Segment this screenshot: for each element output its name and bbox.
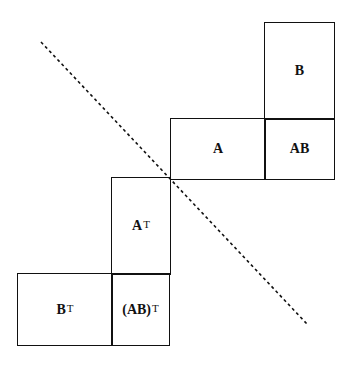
- transpose-superscript: T: [143, 218, 150, 230]
- box-b-label: B: [295, 63, 304, 79]
- box-ab-label: AB: [290, 141, 309, 157]
- transpose-superscript: T: [67, 302, 74, 314]
- box-ab-transpose-label: (AB): [122, 302, 151, 318]
- transpose-superscript: T: [152, 302, 159, 314]
- box-b: B: [264, 22, 335, 120]
- box-a-label: A: [213, 141, 223, 157]
- box-a: A: [170, 118, 266, 180]
- box-a-transpose-label: A: [132, 218, 142, 234]
- box-a-transpose: AT: [111, 177, 171, 275]
- box-b-transpose: BT: [17, 273, 113, 346]
- box-b-transpose-label: B: [56, 302, 65, 318]
- box-ab: AB: [264, 118, 335, 180]
- box-ab-transpose: (AB)T: [111, 273, 170, 346]
